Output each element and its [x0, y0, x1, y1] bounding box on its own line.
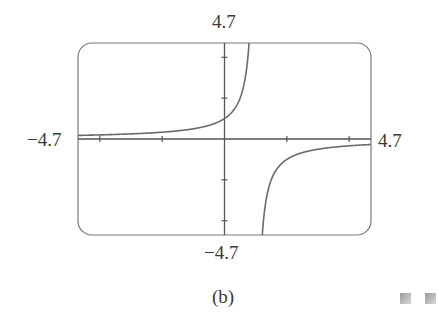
x-min-label: −4.7: [27, 130, 61, 149]
y-min-label: −4.7: [204, 243, 238, 262]
graph-window: [0, 0, 440, 318]
y-max-label: 4.7: [212, 12, 236, 31]
axes: [78, 43, 371, 235]
x-max-label: 4.7: [378, 131, 402, 150]
right-branch-curve: [262, 145, 371, 235]
figure-caption: (b): [212, 287, 234, 306]
gray-square-icon: [425, 293, 436, 304]
gray-square-icon: [400, 293, 411, 304]
